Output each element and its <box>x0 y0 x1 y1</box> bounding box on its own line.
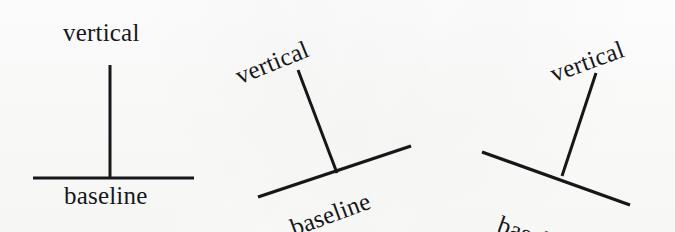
figure-1-baseline-label: baseline <box>64 182 148 210</box>
vertical-line-3 <box>562 73 596 176</box>
figure-tilted-right-lines <box>482 73 630 205</box>
figure-canvas: vertical baseline vertical baseline vert… <box>0 0 675 232</box>
figure-tilted-left-lines <box>258 70 411 197</box>
figure-upright-lines <box>33 65 194 178</box>
baseline-line-3 <box>482 152 630 205</box>
vertical-line-2 <box>298 70 337 173</box>
figure-1-vertical-label: vertical <box>63 19 140 47</box>
baseline-line-2 <box>258 146 411 197</box>
